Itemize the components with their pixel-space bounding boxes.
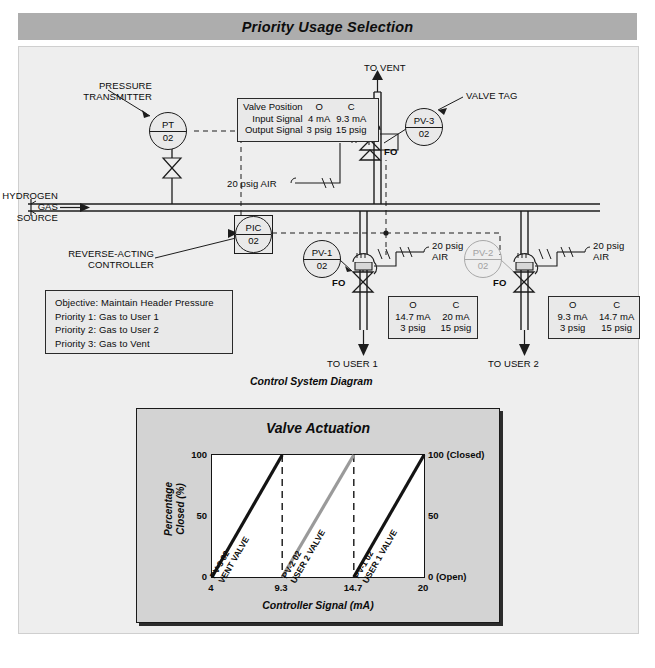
pic-number: 02 [248, 236, 259, 246]
user1-table-col-open: O [391, 299, 435, 311]
chart-ylabel: Percentage Closed (%) [163, 449, 187, 569]
chart-ytick-0: 0 [173, 571, 207, 582]
objective-line-1: Objective: Maintain Header Pressure [55, 296, 214, 310]
chart-xtick-20: 20 [403, 582, 443, 593]
vent-output-signal-label: Output Signal [241, 124, 305, 136]
instrument-bubble-pv3[interactable]: PV-3 02 [405, 108, 443, 146]
pv3-number: 02 [419, 129, 430, 139]
fail-open-user2-label: FO [493, 277, 506, 288]
vent-valve-signal-table: Valve Position O C Input Signal 4 mA 9.3… [237, 98, 379, 142]
pv1-number: 02 [317, 261, 328, 271]
fail-open-user1-label: FO [332, 277, 345, 288]
chart-ytick-50: 50 [173, 510, 207, 521]
user2-valve-signal-table: O C 9.3 mA 14.7 mA 3 psig 15 psig [548, 296, 640, 339]
vent-input-signal-label: Input Signal [241, 113, 305, 125]
air-supply-user1-label: 20 psig AIR [432, 240, 463, 262]
screenshot-root: Priority Usage Selection [0, 0, 655, 668]
table-row: 14.7 mA 20 mA [391, 311, 477, 323]
vent-table-header-label: Valve Position [241, 101, 305, 113]
to-vent-label: TO VENT [364, 62, 406, 73]
air-supply-user2-label: 20 psig AIR [593, 240, 624, 262]
pv3-tag: PV-3 [414, 116, 435, 126]
instrument-bubble-pv2[interactable]: PV-2 02 [464, 240, 502, 278]
instrument-bubble-pv1[interactable]: PV-1 02 [303, 240, 341, 278]
vent-table-col-open: O [305, 101, 334, 113]
fail-open-vent-label: FO [384, 146, 397, 157]
chart-plot-area: PV-3 02 VENT VALVE PV-2 02 USER 2 VALVE … [211, 454, 425, 578]
pv2-number: 02 [478, 261, 489, 271]
vent-table-col-closed: C [334, 101, 369, 113]
instrument-bubble-pt[interactable]: PT 02 [149, 112, 187, 150]
chart-ytick-right-100: 100 (Closed) [428, 449, 485, 460]
hydrogen-gas-source-label: HYDROGEN GAS SOURCE [0, 190, 58, 223]
pt-number: 02 [163, 133, 174, 143]
diagram-caption: Control System Diagram [250, 375, 373, 387]
pv1-tag: PV-1 [312, 248, 333, 258]
air-supply-vent-label: 20 psig AIR [227, 178, 277, 189]
user1-current-closed: 20 mA [435, 311, 477, 323]
reverse-acting-controller-label: REVERSE-ACTING CONTROLLER [42, 248, 154, 270]
user2-current-open: 9.3 mA [551, 311, 594, 323]
instrument-bubble-pic[interactable]: PIC 02 [235, 216, 272, 253]
valve-tag-label: VALVE TAG [466, 90, 517, 101]
to-user-1-label: TO USER 1 [327, 358, 378, 369]
chart-ytick-right-0: 0 (Open) [428, 571, 467, 582]
table-row: 9.3 mA 14.7 mA [551, 311, 639, 323]
chart-title: Valve Actuation [137, 420, 499, 436]
user1-pressure-open: 3 psig [391, 322, 435, 334]
chart-ylabel-line2: Closed (%) [175, 483, 186, 535]
user2-table-col-open: O [551, 299, 594, 311]
vent-output-signal-open: 3 psig [305, 124, 334, 136]
pic-tag: PIC [246, 223, 262, 233]
table-row: Output Signal 3 psig 15 psig [241, 124, 369, 136]
user1-table-col-closed: C [435, 299, 477, 311]
objective-line-2: Priority 1: Gas to User 1 [55, 310, 159, 324]
vent-output-signal-closed: 15 psig [334, 124, 369, 136]
pv2-tag: PV-2 [473, 248, 494, 258]
table-row: Input Signal 4 mA 9.3 mA [241, 113, 369, 125]
vent-input-signal-open: 4 mA [305, 113, 334, 125]
valve-actuation-chart: Valve Actuation Percentage Closed (%) 10… [136, 408, 500, 623]
user2-pressure-open: 3 psig [551, 322, 594, 334]
objective-box: Objective: Maintain Header Pressure Prio… [45, 290, 233, 354]
user2-current-closed: 14.7 mA [594, 311, 639, 323]
to-user-2-label: TO USER 2 [488, 358, 539, 369]
vent-input-signal-closed: 9.3 mA [334, 113, 369, 125]
table-row: 3 psig 15 psig [391, 322, 477, 334]
table-row: 3 psig 15 psig [551, 322, 639, 334]
objective-line-4: Priority 3: Gas to Vent [55, 337, 150, 351]
chart-ylabel-line1: Percentage [163, 482, 174, 536]
pressure-transmitter-label: PRESSURE TRANSMITTER [62, 80, 152, 102]
objective-line-3: Priority 2: Gas to User 2 [55, 323, 159, 337]
pt-tag: PT [162, 120, 174, 130]
chart-ytick-right-50: 50 [428, 510, 439, 521]
chart-xlabel: Controller Signal (mA) [137, 599, 499, 611]
chart-ytick-100: 100 [173, 449, 207, 460]
user2-table-col-closed: C [594, 299, 639, 311]
user1-valve-signal-table: O C 14.7 mA 20 mA 3 psig 15 psig [388, 296, 478, 339]
user2-pressure-closed: 15 psig [594, 322, 639, 334]
chart-series-svg [212, 455, 424, 577]
user1-current-open: 14.7 mA [391, 311, 435, 323]
user1-pressure-closed: 15 psig [435, 322, 477, 334]
